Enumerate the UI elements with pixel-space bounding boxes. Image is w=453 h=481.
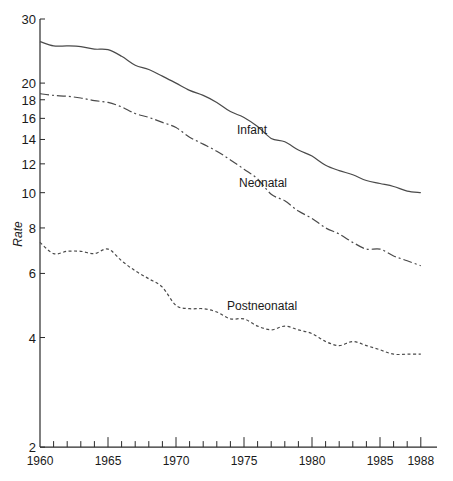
- y-axis-label: Rate: [11, 221, 25, 247]
- line-chart: 2468101214161820301960196519701975198019…: [0, 0, 453, 481]
- y-tick-label: 4: [29, 331, 36, 346]
- y-tick-label: 6: [29, 266, 36, 281]
- y-tick-label: 12: [22, 157, 36, 172]
- y-tick-label: 30: [22, 12, 36, 27]
- series-label-neonatal: Neonatal: [239, 176, 287, 190]
- y-tick-label: 14: [22, 132, 36, 147]
- y-tick-label: 18: [22, 93, 36, 108]
- x-tick-label: 1988: [407, 454, 434, 468]
- x-tick-label: 1985: [367, 454, 394, 468]
- x-tick-label: 1970: [163, 454, 190, 468]
- series-labels: Infant Neonatal Postneonatal: [227, 123, 297, 313]
- y-tick-label: 8: [29, 221, 36, 236]
- y-tick-label: 10: [22, 186, 36, 201]
- y-tick-label: 20: [22, 76, 36, 91]
- x-tick-label: 1975: [231, 454, 258, 468]
- y-tick-label: 2: [29, 440, 36, 455]
- x-tick-label: 1980: [299, 454, 326, 468]
- series-line-infant: [40, 42, 421, 193]
- series-label-infant: Infant: [237, 123, 268, 137]
- axes: 2468101214161820301960196519701975198019…: [22, 12, 437, 468]
- y-tick-label: 16: [22, 111, 36, 126]
- x-tick-label: 1960: [27, 454, 54, 468]
- x-tick-label: 1965: [95, 454, 122, 468]
- series-label-postneonatal: Postneonatal: [227, 299, 297, 313]
